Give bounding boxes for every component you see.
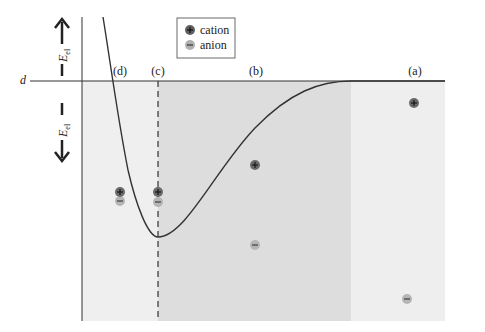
- anion-icon: [250, 240, 260, 250]
- cation-icon: [409, 98, 419, 108]
- legend-anion-icon: [185, 40, 195, 50]
- legend-anion-label: anion: [200, 38, 227, 52]
- energy-down-label: Eel: [56, 123, 72, 138]
- cation-icon: [115, 187, 125, 197]
- anion-icon: [153, 197, 163, 207]
- legend: cation anion: [177, 18, 235, 58]
- cation-icon: [153, 187, 163, 197]
- region-a-shade: [351, 81, 445, 321]
- baseline-label: d: [20, 73, 27, 87]
- region-label-d: (d): [113, 64, 127, 78]
- cation-icon: [250, 160, 260, 170]
- legend-cation-icon: [185, 25, 195, 35]
- region-label-c: (c): [151, 64, 164, 78]
- energy-up-label: Eel: [56, 48, 72, 63]
- anion-icon: [115, 196, 125, 206]
- energy-down-arrow: Eel: [55, 103, 72, 161]
- region-label-a: (a): [408, 64, 421, 78]
- energy-diagram: Eel d Eel (d) (c) (b) (a) cation anion: [0, 0, 485, 332]
- energy-up-arrow: Eel: [55, 19, 72, 76]
- region-b-shade: [158, 81, 351, 321]
- legend-cation-label: cation: [200, 23, 229, 37]
- region-label-b: (b): [249, 64, 263, 78]
- anion-icon: [402, 294, 412, 304]
